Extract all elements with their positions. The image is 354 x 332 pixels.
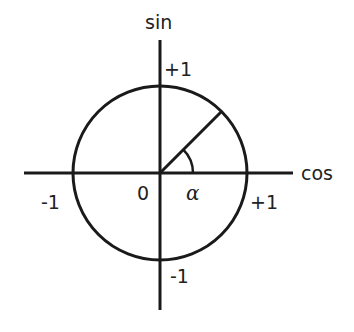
unit-circle-diagram: sin cos +1 -1 -1 +1 0 α xyxy=(0,0,354,332)
x-pos-tick-label: +1 xyxy=(250,191,278,213)
y-pos-tick-label: +1 xyxy=(164,58,192,80)
origin-label: 0 xyxy=(137,182,149,204)
y-axis-label: sin xyxy=(145,11,172,33)
x-neg-tick-label: -1 xyxy=(41,191,60,213)
angle-arc xyxy=(183,150,193,173)
x-axis-label: cos xyxy=(301,162,333,184)
angle-alpha-label: α xyxy=(186,181,200,205)
y-neg-tick-label: -1 xyxy=(170,265,189,287)
